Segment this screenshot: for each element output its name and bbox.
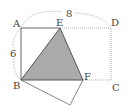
folded-flap: [21, 80, 83, 105]
label-B: B: [13, 80, 20, 91]
height-label: 6: [10, 48, 16, 59]
width-label: 8: [66, 8, 72, 19]
height-dimension-arc: [13, 28, 21, 48]
height-dimension-arc-lower: [14, 58, 21, 80]
label-C: C: [112, 82, 120, 93]
label-E: E: [56, 17, 63, 28]
width-dimension-arc-right: [75, 13, 111, 28]
label-F: F: [84, 71, 91, 82]
shaded-triangle-BEF: [21, 28, 83, 80]
label-A: A: [12, 18, 21, 29]
geometry-figure: A E D B F C 8 6: [0, 0, 128, 112]
label-D: D: [111, 17, 119, 28]
